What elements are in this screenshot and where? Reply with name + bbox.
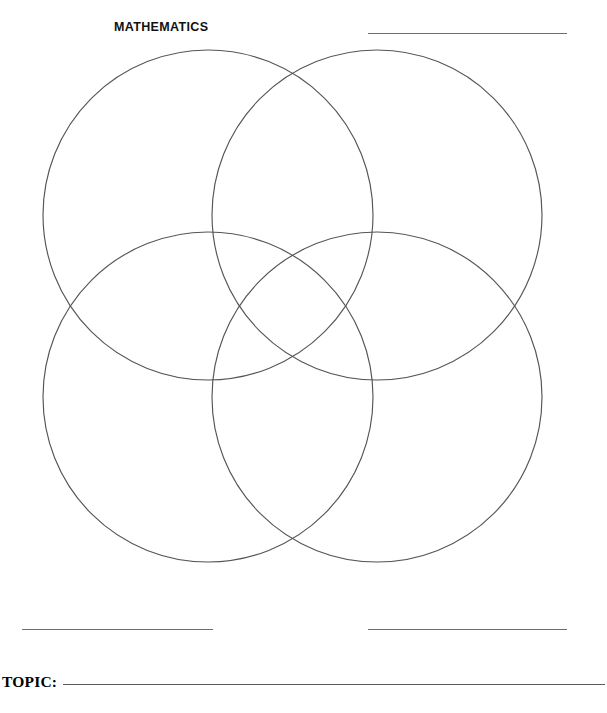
topic-row: TOPIC: — [2, 673, 605, 691]
topic-input-line[interactable] — [63, 684, 605, 685]
blank-line-bottom-right[interactable] — [368, 629, 567, 630]
worksheet-page: MATHEMATICS TOPIC: — [0, 0, 607, 713]
blank-line-bottom-left[interactable] — [22, 629, 213, 630]
venn-circle-top-left — [43, 50, 373, 380]
topic-label: TOPIC: — [2, 673, 57, 691]
venn-diagram-svg — [0, 0, 607, 713]
venn-circle-bottom-left — [43, 232, 373, 562]
blank-line-top-right[interactable] — [368, 33, 567, 34]
venn-diagram — [0, 0, 607, 713]
subject-label: MATHEMATICS — [114, 20, 208, 34]
venn-circle-top-right — [212, 50, 542, 380]
venn-circle-bottom-right — [212, 232, 542, 562]
